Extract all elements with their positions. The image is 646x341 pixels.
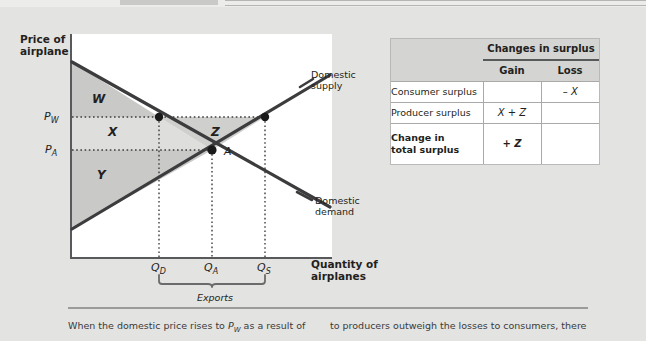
y-axis-title: Price of airplane: [20, 34, 82, 57]
row-label-line1: Change in: [391, 132, 444, 143]
cell-total-surplus-loss: [541, 123, 599, 164]
table-row: Consumer surplus – X: [391, 82, 599, 103]
row-label-change-in-total-surplus: Change in total surplus: [391, 123, 483, 164]
caption-right-column: to producers outweigh the losses to cons…: [330, 320, 610, 332]
top-strip-rule-upper: [225, 0, 646, 1]
caption-price-symbol: PW: [228, 320, 241, 331]
surplus-table-grid: Changes in surplus Gain Loss Consumer su…: [391, 39, 599, 164]
price-a-tick-label: PA: [45, 143, 57, 158]
cell-producer-surplus-loss: [541, 102, 599, 123]
table-row: Producer surplus X + Z: [391, 102, 599, 123]
cell-consumer-surplus-gain: [483, 82, 541, 103]
table-corner-blank: [391, 39, 483, 82]
table-header-changes-in-surplus: Changes in surplus: [483, 39, 599, 60]
price-w-tick-label: PW: [44, 110, 59, 125]
row-label-consumer-surplus: Consumer surplus: [391, 82, 483, 103]
point-label-a: A: [224, 145, 232, 158]
top-strip-block: [120, 0, 218, 5]
q-d-tick-label: QD: [151, 261, 166, 276]
table-header-group-row: Changes in surplus: [391, 39, 599, 60]
domestic-supply-label: Domestic supply: [311, 69, 373, 91]
caption-left-part-a: When the domestic price rises to: [68, 320, 228, 331]
x-axis-title: Quantity of airplanes: [311, 259, 391, 282]
cell-consumer-surplus-loss: – X: [541, 82, 599, 103]
changes-in-surplus-table: Changes in surplus Gain Loss Consumer su…: [390, 38, 600, 165]
cell-total-surplus-gain: + Z: [483, 123, 541, 164]
row-label-line2: total surplus: [391, 144, 459, 155]
point-supply-at-world-price: [261, 113, 269, 121]
supply-demand-chart: Price of airplane Quantity of airplanes …: [0, 7, 380, 307]
top-strip-rule-lower: [225, 5, 646, 6]
exports-bracket: [159, 275, 265, 287]
table-header-loss: Loss: [541, 60, 599, 82]
q-a-tick-label: QA: [204, 261, 218, 276]
q-s-tick-label: QS: [257, 261, 271, 276]
exports-bracket-label: Exports: [165, 292, 265, 303]
region-label-y: Y: [97, 168, 106, 182]
table-row: Change in total surplus + Z: [391, 123, 599, 164]
domestic-demand-label: Domestic demand: [315, 195, 377, 217]
region-label-w: W: [92, 92, 105, 106]
region-label-z: Z: [211, 125, 220, 139]
region-label-x: X: [108, 125, 117, 139]
point-autarky-equilibrium: [207, 145, 216, 154]
figure-caption: When the domestic price rises to PW as a…: [0, 307, 646, 341]
caption-left-column: When the domestic price rises to PW as a…: [68, 320, 308, 336]
cell-producer-surplus-gain: X + Z: [483, 102, 541, 123]
page-top-strip: [0, 0, 646, 7]
point-demand-at-world-price: [155, 113, 163, 121]
table-header-gain: Gain: [483, 60, 541, 82]
row-label-producer-surplus: Producer surplus: [391, 102, 483, 123]
caption-left-part-b: as a result of: [241, 320, 306, 331]
caption-divider: [68, 307, 588, 309]
figure: Price of airplane Quantity of airplanes …: [0, 7, 646, 307]
